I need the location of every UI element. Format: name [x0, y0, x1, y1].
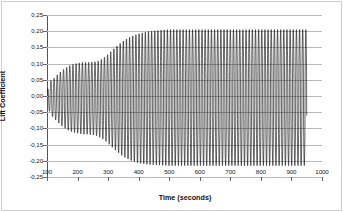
y-tick-label: 0,25: [3, 11, 43, 18]
gridline: [47, 177, 322, 178]
x-tick-label: 200: [73, 168, 83, 175]
x-tick-mark: [291, 177, 292, 181]
x-tick-label: 300: [103, 168, 113, 175]
x-tick-mark: [108, 177, 109, 181]
y-tick-label: 0,10: [3, 60, 43, 67]
x-tick-label: 800: [256, 168, 266, 175]
y-tick-label: -0,05: [3, 108, 43, 115]
x-axis-title: Time (seconds): [47, 193, 323, 202]
y-tick-label: 0,20: [3, 27, 43, 34]
x-tick-mark: [78, 177, 79, 181]
y-tick-label: 0,15: [3, 43, 43, 50]
y-tick-label: -0,15: [3, 141, 43, 148]
x-tick-mark: [139, 177, 140, 181]
y-tick-label: 0,00: [3, 92, 43, 99]
x-tick-label: 100: [42, 168, 52, 175]
x-tick-mark: [200, 177, 201, 181]
x-tick-label: 500: [164, 168, 174, 175]
y-tick-label: -0,10: [3, 124, 43, 131]
x-tick-label: 700: [225, 168, 235, 175]
x-tick-mark: [47, 177, 48, 181]
x-tick-mark: [322, 177, 323, 181]
y-axis-title: Lift Coefficient: [0, 71, 7, 121]
y-tick-label: -0,25: [3, 173, 43, 180]
x-tick-label: 900: [286, 168, 296, 175]
y-tick-label: -0,20: [3, 157, 43, 164]
plot-area: [47, 15, 322, 177]
x-tick-label: 600: [195, 168, 205, 175]
x-tick-label: 1000: [315, 168, 328, 175]
x-tick-label: 400: [134, 168, 144, 175]
lift-coefficient-chart: 0,250,200,150,100,050,00-0,05-0,10-0,15-…: [0, 0, 343, 212]
x-tick-mark: [169, 177, 170, 181]
x-tick-mark: [230, 177, 231, 181]
y-tick-label: 0,05: [3, 76, 43, 83]
series-line-path: [47, 30, 307, 166]
series-lift-coefficient: [47, 15, 322, 177]
x-tick-mark: [261, 177, 262, 181]
